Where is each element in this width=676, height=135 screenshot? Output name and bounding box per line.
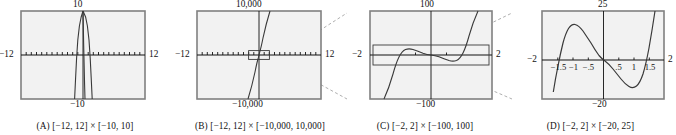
caption-b: (B) [−12, 12] × [−10,000, 10,000] bbox=[170, 121, 350, 131]
label-top-b: 10,000 bbox=[236, 0, 262, 9]
xtick-label-4: 1 bbox=[632, 62, 636, 72]
label-bottom-d: −20 bbox=[592, 99, 607, 109]
label-right-b: 12 bbox=[325, 49, 334, 59]
panel-b-plot bbox=[170, 0, 350, 112]
figure-four-viewing-windows: 10 −10 −12 12 (A) [−12, 12] × [−10, 10] bbox=[0, 0, 676, 135]
caption-d: (D) [−2, 2] × [−20, 25] bbox=[505, 121, 676, 131]
xtick-label-5: 1.5 bbox=[645, 62, 656, 72]
label-bottom-c: −100 bbox=[416, 99, 435, 109]
panel-a: 10 −10 −12 12 (A) [−12, 12] × [−10, 10] bbox=[0, 0, 170, 135]
label-left-c: −2 bbox=[352, 49, 362, 59]
label-right-d: 2 bbox=[668, 54, 673, 64]
panel-a-plot bbox=[0, 0, 170, 112]
panel-b: 10,000 −10,000 −12 12 (B) [−12, 12] × [−… bbox=[170, 0, 350, 135]
panel-c: 100 −100 −2 2 (C) [−2, 2] × [−100, 100] bbox=[340, 0, 510, 135]
label-left-b: −12 bbox=[175, 49, 190, 59]
label-top-c: 100 bbox=[420, 0, 434, 9]
xtick-label-0: −1.5 bbox=[551, 62, 567, 72]
label-bottom-a: −10 bbox=[70, 99, 85, 109]
label-left-d: −2 bbox=[527, 54, 537, 64]
xtick-label-1: −1 bbox=[569, 62, 578, 72]
xtick-label-3: .5 bbox=[615, 62, 621, 72]
label-right-c: 2 bbox=[496, 49, 501, 59]
label-top-a: 10 bbox=[73, 0, 82, 9]
caption-a: (A) [−12, 12] × [−10, 10] bbox=[0, 121, 170, 131]
label-top-d: 25 bbox=[598, 0, 607, 9]
label-right-a: 12 bbox=[149, 49, 158, 59]
xtick-label-2: −.5 bbox=[583, 62, 594, 72]
panel-d: −1.5 −1 −.5 .5 1 1.5 25 −20 −2 2 (D) [−2… bbox=[505, 0, 676, 135]
label-left-a: −12 bbox=[0, 49, 14, 59]
panel-c-plot bbox=[340, 0, 510, 112]
label-bottom-b: −10,000 bbox=[232, 99, 263, 109]
caption-c: (C) [−2, 2] × [−100, 100] bbox=[340, 121, 510, 131]
